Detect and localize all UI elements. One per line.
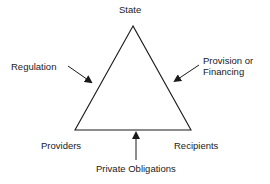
diagram-graphic: [0, 0, 270, 184]
edge-label-provision-financing: Provision or Financing: [203, 55, 253, 77]
provision-label-line2: Financing: [203, 66, 253, 77]
provision-label-line1: Provision or: [203, 55, 253, 66]
triangle-shape: [75, 26, 191, 130]
regulation-arrow-icon: [68, 66, 91, 82]
triangle-diagram: State Regulation Provision or Financing …: [0, 0, 270, 184]
edge-label-private-obligations: Private Obligations: [96, 163, 176, 174]
edge-label-regulation: Regulation: [11, 61, 56, 72]
node-state: State: [119, 4, 141, 15]
node-recipients: Recipients: [174, 140, 218, 151]
node-providers: Providers: [41, 140, 81, 151]
provision-arrow-icon: [175, 65, 199, 81]
